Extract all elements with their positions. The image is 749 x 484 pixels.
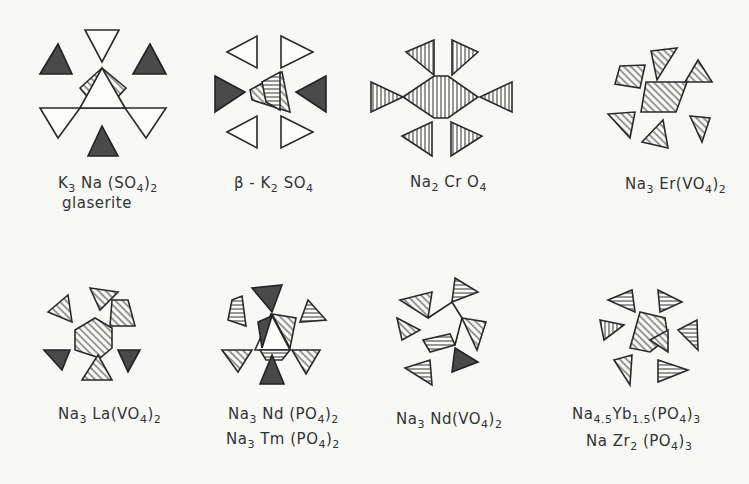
label-sub: 4 bbox=[671, 440, 679, 453]
label-sub: 4 bbox=[679, 413, 687, 426]
label-sub: 3 bbox=[693, 413, 701, 426]
formula-label-nazr2-po4-3: Na Zr2 (PO4)3 bbox=[586, 432, 692, 453]
label-text: Na bbox=[572, 405, 593, 423]
label-sub: 3 bbox=[685, 440, 693, 453]
label-sub: 1.5 bbox=[632, 413, 651, 426]
label-text: Na Zr bbox=[586, 432, 630, 450]
label-sub: 2 bbox=[630, 440, 638, 453]
label-text: (PO bbox=[651, 405, 679, 423]
label-text: Yb bbox=[612, 405, 632, 423]
structure-diagram: K3 Na (SO4)2 glaserite β - K2 SO4 Na2 Cr… bbox=[0, 0, 749, 484]
formula-label-na45yb15-po4-3: Na4.5Yb1.5(PO4)3 bbox=[572, 405, 701, 426]
label-text: (PO bbox=[638, 432, 671, 450]
label-sub: 4.5 bbox=[593, 413, 612, 426]
